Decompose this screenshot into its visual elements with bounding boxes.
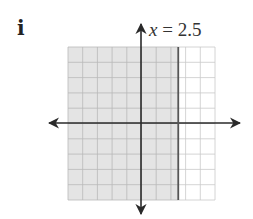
coordinate-graph bbox=[0, 0, 253, 219]
